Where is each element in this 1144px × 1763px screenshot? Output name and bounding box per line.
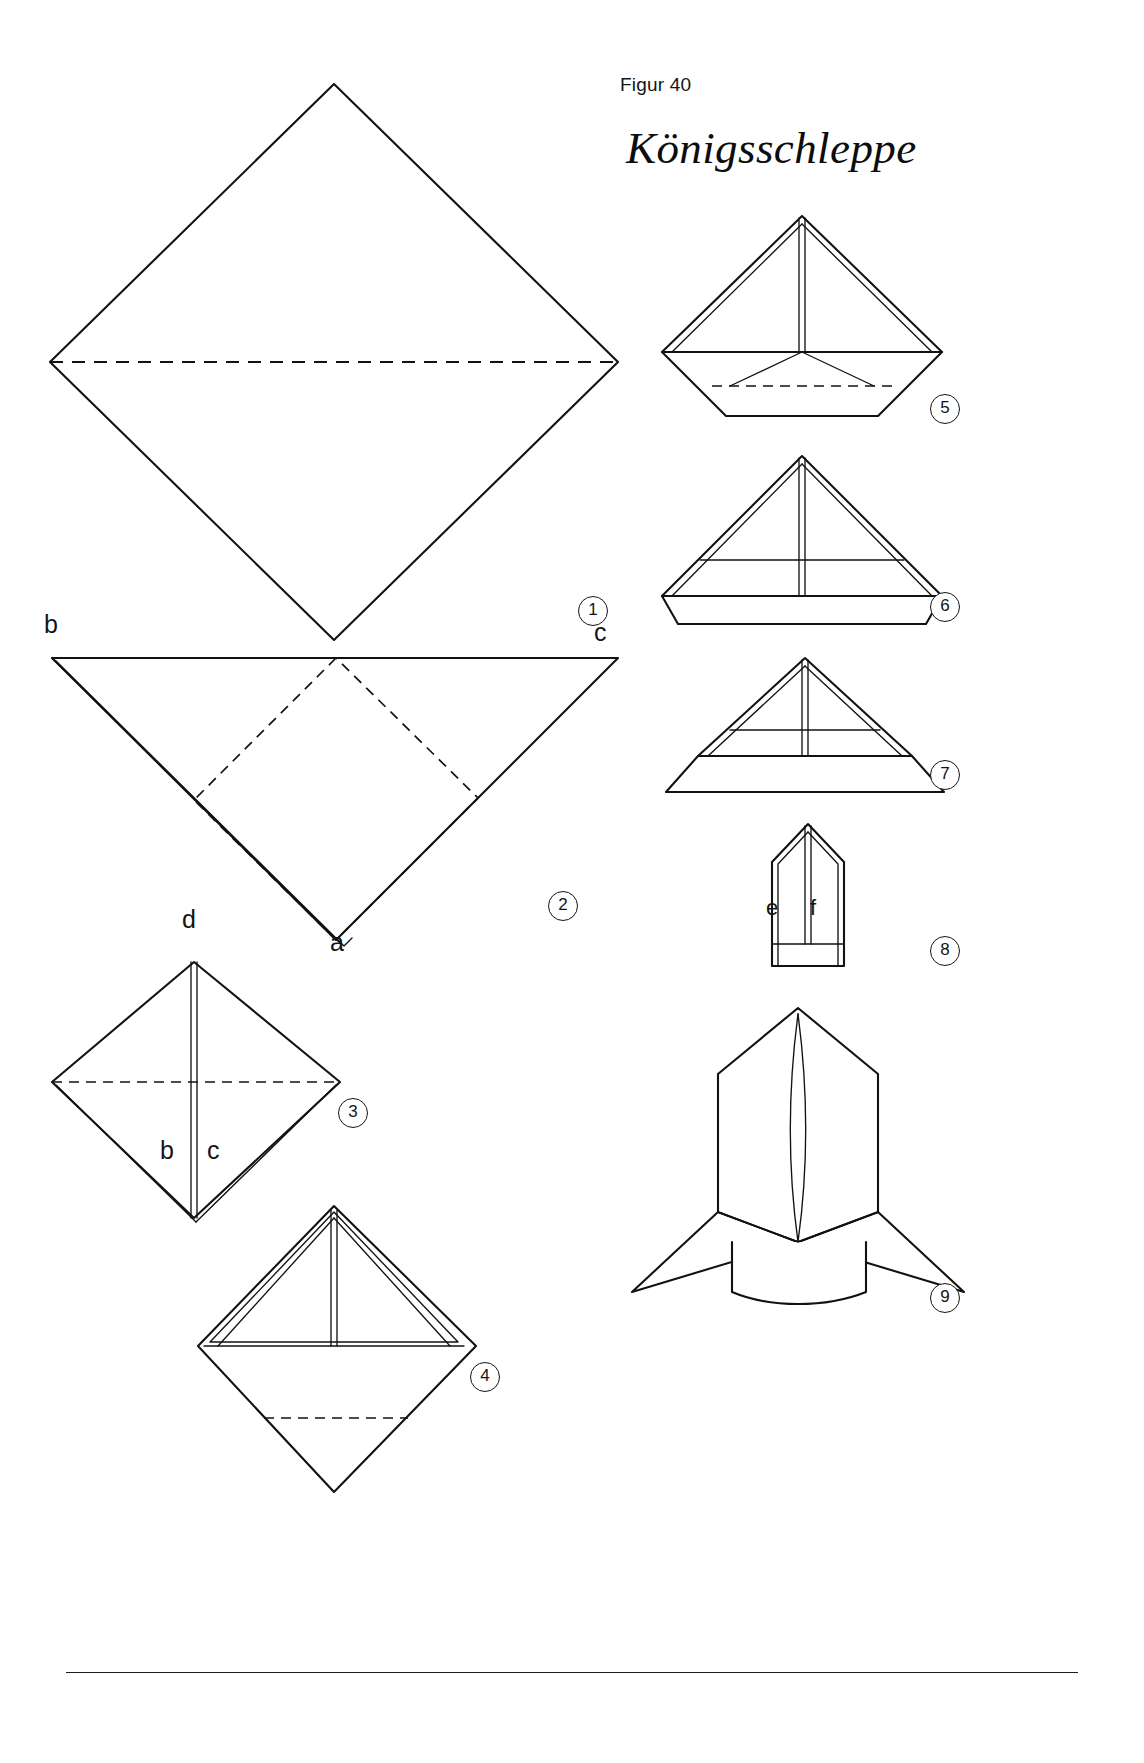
lower-band xyxy=(662,352,942,416)
point-label-e-step8: e xyxy=(766,897,778,919)
upper-triangle xyxy=(698,658,912,756)
point-label-f-step8: f xyxy=(810,897,816,919)
point-label-b-step2: b xyxy=(44,612,58,637)
step-number-4: 4 xyxy=(470,1362,500,1392)
diagram-step-5 xyxy=(652,210,952,435)
diagram-step-9 xyxy=(620,1000,980,1320)
body-outline xyxy=(718,1008,878,1242)
page-title: Königsschleppe xyxy=(626,122,917,174)
figure-label: Figur 40 xyxy=(620,74,691,96)
step-4-drawing xyxy=(192,1200,482,1500)
step-3-drawing xyxy=(46,956,346,1224)
upper-triangle xyxy=(662,216,942,352)
step-number-3: 3 xyxy=(338,1098,368,1128)
body-outline xyxy=(772,824,844,966)
step-number-8: 8 xyxy=(930,936,960,966)
point-label-d-step3: d xyxy=(182,907,196,932)
triangle-outline xyxy=(52,658,618,940)
point-label-b-step3: b xyxy=(160,1138,174,1163)
step-2-drawing xyxy=(44,652,624,952)
upper-triangle xyxy=(662,456,942,596)
step-9-drawing xyxy=(620,1000,980,1320)
point-label-c-step3: c xyxy=(207,1138,220,1163)
step-1-drawing xyxy=(44,78,624,648)
point-label-a-step2: a xyxy=(330,930,344,955)
step-number-2: 2 xyxy=(548,891,578,921)
footer-divider xyxy=(66,1672,1078,1673)
square-outline xyxy=(50,84,618,640)
step-number-6: 6 xyxy=(930,592,960,622)
diagram-step-3 xyxy=(46,956,346,1224)
step-number-7: 7 xyxy=(930,760,960,790)
lower-band xyxy=(662,596,942,624)
diagram-step-4 xyxy=(192,1200,482,1500)
diagram-step-7 xyxy=(660,652,950,817)
train-skirt xyxy=(732,1242,866,1304)
point-label-c-step2: c xyxy=(594,620,607,645)
step-7-drawing xyxy=(660,652,950,817)
step-number-5: 5 xyxy=(930,394,960,424)
base-band xyxy=(666,756,944,792)
step-number-9: 9 xyxy=(930,1283,960,1313)
step-5-drawing xyxy=(652,210,952,435)
step-6-drawing xyxy=(652,450,952,645)
diagram-step-6 xyxy=(652,450,952,645)
diagram-step-1 xyxy=(44,78,624,648)
page-canvas: Figur 40 Königsschleppe 1 b c a 2 xyxy=(0,0,1144,1763)
diagram-step-2 xyxy=(44,652,624,952)
diamond-outline xyxy=(52,962,340,1218)
